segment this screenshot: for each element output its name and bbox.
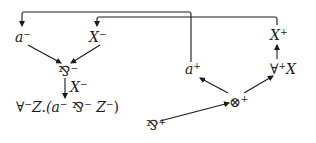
node-a-plus: a+ — [185, 62, 201, 76]
node-par-plus: ⅋+ — [146, 118, 166, 132]
node-X-minus: X− — [89, 30, 107, 44]
edge-label-X-minus: X− — [70, 80, 88, 94]
node-a-minus: a− — [15, 30, 31, 44]
node-par-minus: ⅋− — [58, 64, 78, 78]
node-tensor-plus: ⊗+ — [229, 95, 248, 109]
node-X-plus: X+ — [270, 28, 288, 42]
proof-net-diagram: a− X− ⅋− X− ∀−Z.(a− ⅋− Z−) a+ X+ ∀+X ⊗+ … — [0, 0, 316, 143]
node-forall-minus: ∀−Z.(a− ⅋− Z−) — [16, 100, 119, 114]
node-forall-plus: ∀+X — [270, 62, 296, 76]
axiom-link-X — [97, 17, 277, 26]
